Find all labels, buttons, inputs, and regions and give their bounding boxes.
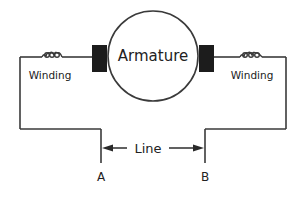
left-arrow-icon bbox=[102, 145, 113, 152]
motor-circuit-diagram: Armature Winding Winding Line A B bbox=[0, 0, 303, 198]
right-coil-icon bbox=[240, 52, 262, 57]
terminal-b-label: B bbox=[201, 170, 209, 184]
right-winding-label: Winding bbox=[231, 69, 274, 81]
line-label: Line bbox=[134, 141, 161, 156]
left-winding-label: Winding bbox=[29, 69, 72, 81]
left-brush bbox=[92, 45, 107, 72]
armature-label: Armature bbox=[118, 47, 188, 65]
left-coil-icon bbox=[42, 52, 62, 57]
terminal-a-label: A bbox=[97, 170, 106, 184]
right-arrow-icon bbox=[193, 145, 204, 152]
right-brush bbox=[199, 45, 214, 72]
